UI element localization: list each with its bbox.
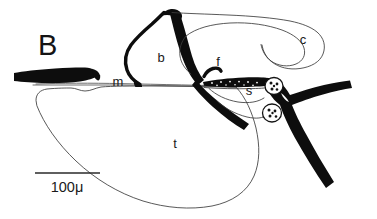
label-c: c	[300, 32, 307, 47]
anatomical-line-drawing: B b m f c s t 100μ	[0, 0, 377, 219]
label-t: t	[173, 136, 177, 151]
label-b: b	[157, 50, 164, 65]
panel-letter: B	[38, 29, 57, 61]
cell-lower	[263, 104, 282, 122]
figure-panel: B b m f c s t 100μ	[0, 0, 377, 219]
scale-bar-label: 100μ	[51, 179, 84, 195]
cell-upper	[265, 78, 283, 95]
label-s: s	[246, 83, 253, 98]
label-m: m	[113, 74, 124, 89]
label-f: f	[216, 54, 220, 69]
